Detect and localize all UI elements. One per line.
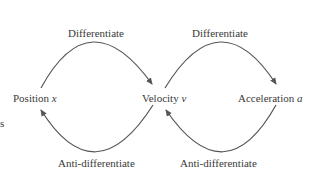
node-position-symbol: x (52, 92, 57, 104)
edge-label-differentiate-right: Differentiate (192, 28, 248, 39)
arrow-differentiate-velocity-acceleration (165, 42, 276, 88)
node-velocity-symbol: v (181, 92, 186, 104)
side-fragment-text: s (0, 118, 4, 129)
edge-label-differentiate-left: Differentiate (68, 28, 124, 39)
node-acceleration: Acceleration a (238, 93, 302, 104)
node-acceleration-label: Acceleration (238, 92, 294, 104)
node-position-label: Position (13, 92, 49, 104)
node-velocity: Velocity v (142, 93, 186, 104)
node-velocity-label: Velocity (142, 92, 179, 104)
node-acceleration-symbol: a (297, 92, 303, 104)
edge-label-antidifferentiate-right: Anti-differentiate (180, 158, 257, 169)
arrow-antidifferentiate-velocity-position (41, 105, 153, 152)
edge-label-antidifferentiate-left: Anti-differentiate (58, 158, 135, 169)
arrow-differentiate-position-velocity (41, 42, 152, 88)
diagram-arrows (0, 0, 315, 179)
arrow-antidifferentiate-acceleration-velocity (166, 105, 276, 152)
node-position: Position x (13, 93, 57, 104)
